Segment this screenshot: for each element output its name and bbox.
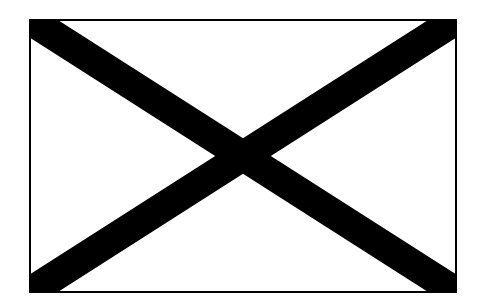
saltire-figure <box>0 0 482 306</box>
